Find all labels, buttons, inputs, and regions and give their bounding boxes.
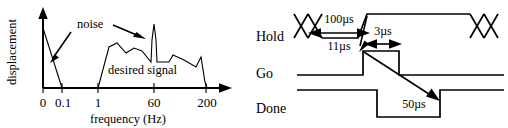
measure-50us-label: 50µs xyxy=(402,97,426,111)
low-frequency-noise-spike xyxy=(43,28,62,88)
measure-3us-label: 3µs xyxy=(374,24,392,38)
noise-arrow-to-60hz xyxy=(113,25,146,39)
spectrum-svg: 0 0.1 1 60 200 displacement frequency (H… xyxy=(0,0,254,128)
y-axis xyxy=(38,7,47,88)
y-axis-title: displacement xyxy=(5,19,19,85)
measure-100us-label: 100µs xyxy=(324,12,354,26)
x-axis-title: frequency (Hz) xyxy=(90,112,166,126)
go-waveform xyxy=(297,51,504,75)
measure-3us: 3µs xyxy=(364,24,402,49)
x-tick-label-1: 1 xyxy=(95,95,102,110)
hold-dontcare-end xyxy=(470,14,498,38)
signal-label-done: Done xyxy=(256,101,286,116)
measure-100us: 100µs xyxy=(308,12,370,38)
timing-svg: Hold Go Done xyxy=(254,0,508,128)
desired-signal-spectrum-curve xyxy=(98,24,207,88)
vibration-spectrum-panel: 0 0.1 1 60 200 displacement frequency (H… xyxy=(0,0,254,128)
x-tick-label-0p1: 0.1 xyxy=(55,95,71,110)
measure-11us-label: 11µs xyxy=(327,39,350,53)
signal-label-hold: Hold xyxy=(256,29,284,44)
x-axis xyxy=(43,83,232,93)
figure-root: 0 0.1 1 60 200 displacement frequency (H… xyxy=(0,0,508,128)
x-tick-label-200: 200 xyxy=(197,95,217,110)
done-waveform xyxy=(297,90,504,117)
measure-50us: 50µs xyxy=(364,52,440,111)
x-tick-label-0: 0 xyxy=(40,95,47,110)
desired-signal-annotation-label: desired signal xyxy=(108,63,178,77)
signal-label-go: Go xyxy=(256,66,273,81)
noise-arrow-to-lowfreq xyxy=(50,32,71,63)
handshake-timing-panel: Hold Go Done xyxy=(254,0,508,128)
x-tick-label-60: 60 xyxy=(148,95,161,110)
noise-annotation-label: noise xyxy=(77,17,104,31)
